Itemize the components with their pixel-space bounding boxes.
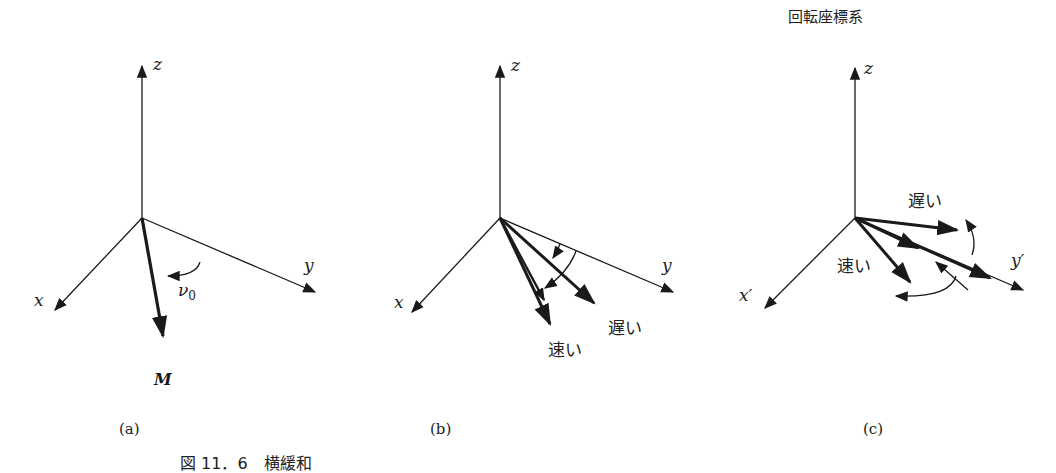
- x-axis-label: x: [394, 294, 404, 311]
- fast-rotation-arc-arrow: [896, 276, 956, 296]
- magnetization-label: M: [154, 372, 172, 388]
- fast-label: 速い: [837, 258, 871, 275]
- slow-label: 遅い: [608, 320, 642, 337]
- precession-arc-arrow: [168, 262, 200, 276]
- x-axis: [55, 218, 142, 310]
- figure-caption: 図 11．6 横緩和: [180, 456, 312, 472]
- y-axis-label: y: [662, 257, 672, 274]
- rotating-frame-title: 回転座標系: [788, 10, 863, 25]
- magnetization-vector: [142, 218, 163, 336]
- nu-subscript: 0: [188, 289, 196, 303]
- nu-symbol: ν: [178, 280, 188, 300]
- slow-label: 遅い: [908, 193, 942, 210]
- y-axis: [500, 218, 673, 292]
- panel-c-label: (c): [863, 422, 883, 437]
- slow-rotation-arc-arrow: [966, 220, 974, 255]
- fast-label: 速い: [548, 342, 582, 359]
- y-axis: [142, 218, 315, 292]
- z-axis-label: z: [864, 60, 873, 77]
- y-prime-axis-label: y′: [1011, 252, 1024, 269]
- x-axis-label: x: [34, 292, 44, 309]
- z-axis-label: z: [153, 56, 162, 73]
- x-prime-axis-label: x′: [739, 287, 752, 304]
- precession-frequency-label: ν0: [178, 282, 196, 302]
- panel-b-diagram: [412, 66, 673, 324]
- panel-b-label: (b): [430, 422, 451, 437]
- z-axis-label: z: [511, 57, 520, 74]
- spin-vector-slow: [500, 218, 594, 303]
- panel-a-label: (a): [119, 422, 140, 437]
- spin-vector-mid: [500, 218, 544, 300]
- panel-c-diagram: [765, 68, 1023, 308]
- x-axis: [412, 218, 500, 312]
- y-axis-label: y: [304, 257, 314, 274]
- dephasing-arc-arrow-inner: [553, 244, 560, 258]
